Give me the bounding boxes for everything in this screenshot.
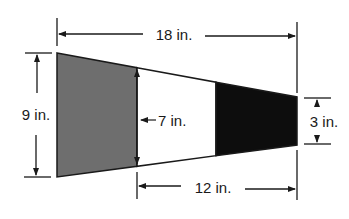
- label-18in: 18 in.: [156, 26, 193, 43]
- label-12in: 12 in.: [195, 179, 232, 196]
- trapezoid-diagram: 18 in. 9 in. 7 in. 3 in. 12 in.: [0, 0, 349, 219]
- label-9in: 9 in.: [22, 106, 50, 123]
- gray-section: [57, 53, 137, 177]
- dimension-3in: 3 in.: [304, 98, 338, 144]
- black-section: [216, 82, 297, 156]
- dimension-9in: 9 in.: [22, 53, 52, 177]
- label-3in: 3 in.: [310, 113, 338, 130]
- label-7in: 7 in.: [158, 112, 186, 129]
